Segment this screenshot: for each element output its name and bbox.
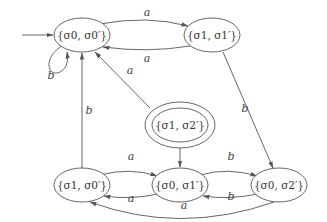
state-s11: {σ1, σ1′} [184,18,240,52]
state-label-s02: {σ0, σ2′} [254,179,304,192]
state-s12-accepting: {σ1, σ2′} [145,102,215,148]
label-s10-s01: a [128,150,135,163]
label-s11-s00: a [144,52,151,65]
state-label-s12: {σ1, σ2′} [155,119,205,132]
label-s12-s00: a [127,64,134,77]
state-s02: {σ0, σ2′} [251,168,307,202]
edge-s10-s01 [100,171,157,176]
state-label-s00: {σ0, σ0′} [57,29,107,42]
label-s00-s11: a [144,6,151,19]
label-s01-s02: b [227,150,234,163]
state-label-s11: {σ1, σ1′} [187,29,237,42]
state-label-s01: {σ0, σ1′} [155,179,205,192]
edge-s12-s00 [95,52,150,108]
state-label-s10: {σ1, σ0′} [57,179,107,192]
label-s02-s01: b [227,190,234,203]
state-s01: {σ0, σ1′} [152,168,208,202]
state-s00: {σ0, σ0′} [54,18,110,52]
label-s00-self: b [47,69,54,82]
label-s10-s00: b [85,104,92,117]
label-s01-s10: a [128,192,135,205]
label-s11-s02: b [241,102,248,115]
state-s10: {σ1, σ0′} [54,168,110,202]
edge-s11-s00 [103,46,190,50]
state-diagram: a a b b a b b a a b b a {σ0, σ0′} {σ1, σ… [0,0,327,222]
edge-s00-s11 [100,20,188,26]
edge-s01-s02 [200,171,257,176]
